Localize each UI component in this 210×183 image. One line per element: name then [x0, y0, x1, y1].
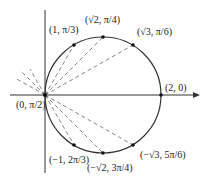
point-origin — [43, 93, 47, 97]
point-r2-pi4 — [101, 35, 105, 39]
label-r2-pi4: (√2, π/4) — [85, 15, 120, 25]
label-mr3-5pi6: (−√3, 5π/6) — [140, 150, 186, 160]
label-m1-2pi3: (−1, 2π/3) — [49, 155, 89, 165]
point-mr3-5pi6 — [131, 143, 135, 147]
point-m1-2pi3 — [72, 143, 76, 147]
label-1-pi3: (1, π/3) — [49, 25, 79, 35]
point-2-0 — [159, 93, 163, 97]
label-r3-pi6: (√3, π/6) — [137, 27, 172, 37]
point-1-pi3 — [72, 43, 76, 47]
label-2-0: (2, 0) — [165, 83, 187, 93]
label-mr2-3pi4: (−√2, 3π/4) — [87, 163, 133, 173]
point-r3-pi6 — [131, 43, 135, 47]
x-axis-arrow-icon — [193, 92, 200, 98]
label-origin: (0, π/2) — [16, 100, 46, 110]
point-mr2-3pi4 — [101, 151, 105, 155]
